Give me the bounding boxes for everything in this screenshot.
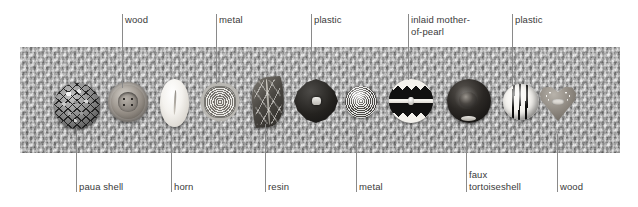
leader-line-metal-bot [356, 126, 357, 192]
button-materials-figure: woodmetalplasticinlaid mother- of-pearlp… [0, 0, 638, 207]
label-inlaid-mop: inlaid mother- of-pearl [411, 14, 470, 37]
mop-center-shank [408, 97, 413, 106]
leader-line-plastic-1 [311, 14, 312, 80]
leader-line-horn [171, 128, 172, 192]
button-inlaid-mop [389, 79, 433, 123]
label-paua-shell: paua shell [79, 181, 123, 193]
button-faux-tortoiseshell [447, 79, 491, 123]
label-resin: resin [268, 181, 289, 193]
label-plastic-1: plastic [314, 14, 342, 26]
mop-zigzag-bottom [389, 103, 433, 122]
leader-line-wood-bot [557, 134, 558, 192]
button-wood-round [108, 82, 148, 122]
leader-line-plastic-2 [512, 14, 513, 86]
button-plastic-striped [503, 84, 539, 120]
label-wood-top: wood [125, 14, 148, 26]
leader-line-wood-top [122, 14, 123, 88]
label-faux-tort: faux tortoiseshell [469, 169, 521, 192]
label-horn: horn [174, 181, 193, 193]
leader-line-paua-shell [76, 128, 77, 192]
leader-line-resin [265, 124, 266, 192]
label-wood-bot: wood [560, 181, 583, 193]
leader-line-metal-top [216, 14, 217, 84]
leader-line-inlaid-mop [408, 14, 409, 80]
leader-line-faux-tort [466, 130, 467, 192]
label-plastic-2: plastic [515, 14, 543, 26]
label-metal-top: metal [219, 14, 243, 26]
button-paua-shell [54, 83, 100, 129]
label-metal-bot: metal [359, 181, 383, 193]
button-plastic-dotted [345, 86, 377, 118]
button-horn [160, 79, 189, 127]
button-resin-leaf [250, 76, 285, 128]
